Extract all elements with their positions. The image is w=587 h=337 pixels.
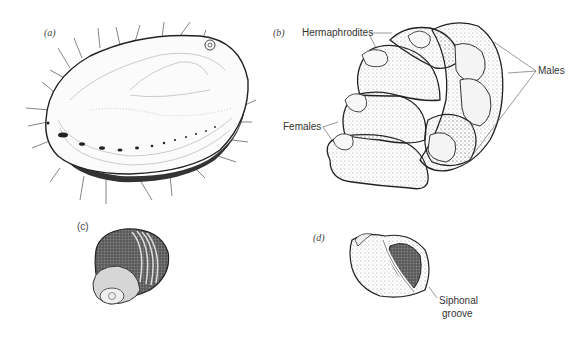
slipper-limpet-stack-illustration — [327, 23, 503, 189]
figure-canvas — [0, 0, 587, 337]
label-females: Females — [283, 121, 321, 132]
label-siphonal-groove-line2: groove — [442, 308, 473, 319]
abalone-illustration — [26, 22, 256, 204]
banded-snail-illustration — [93, 229, 169, 304]
panel-label-b: (b) — [273, 27, 285, 38]
panel-label-c: (c) — [77, 221, 89, 232]
panel-label-d: (d) — [313, 232, 325, 243]
label-males: Males — [538, 65, 565, 76]
label-siphonal-groove-line1: Siphonal — [439, 295, 478, 306]
siphonal-snail-illustration — [350, 234, 429, 298]
label-hermaphrodites: Hermaphrodites — [302, 27, 373, 38]
panel-label-a: (a) — [44, 27, 56, 38]
